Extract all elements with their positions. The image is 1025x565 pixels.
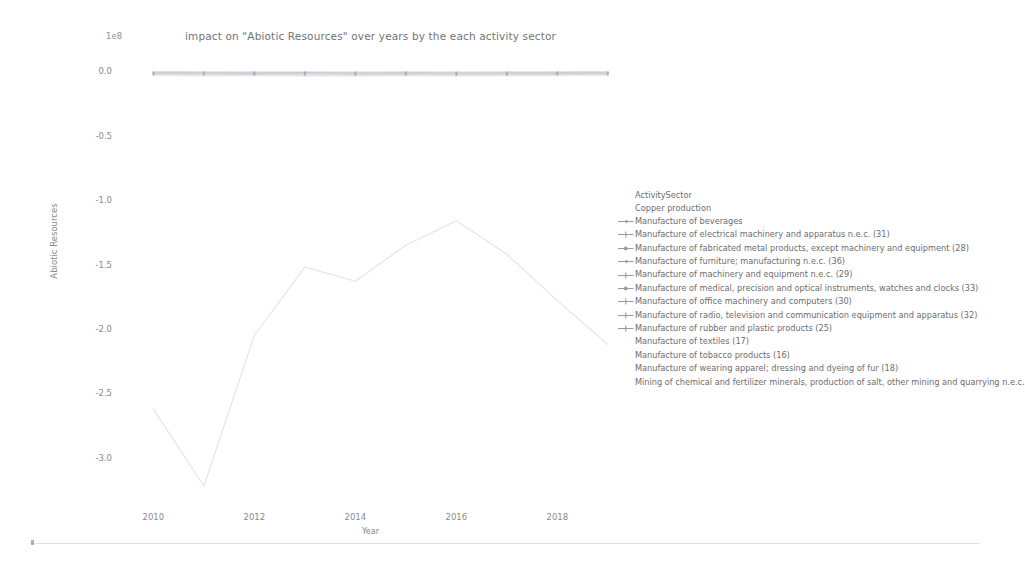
legend-item-label: Manufacture of beverages	[635, 215, 743, 228]
legend-marker-icon	[617, 202, 635, 215]
legend-item[interactable]: Manufacture of furniture; manufacturing …	[617, 255, 987, 268]
legend-item-label: Manufacture of rubber and plastic produc…	[635, 322, 832, 335]
legend-item[interactable]: Manufacture of office machinery and comp…	[617, 295, 987, 308]
x-tick-label: 2018	[547, 512, 569, 522]
series-line	[153, 75, 607, 76]
legend-item[interactable]: Manufacture of rubber and plastic produc…	[617, 322, 987, 335]
legend-item-label: Manufacture of textiles (17)	[635, 335, 749, 348]
legend-item-label: Mining of chemical and fertilizer minera…	[635, 376, 1025, 389]
legend-marker-icon	[617, 322, 635, 335]
legend-entries: Copper productionManufacture of beverage…	[617, 202, 987, 389]
series-line	[153, 221, 607, 487]
y-tick-label: -1.5	[95, 260, 112, 270]
x-tick-label: 2012	[244, 512, 266, 522]
series-marker	[405, 73, 407, 75]
legend-marker-icon	[617, 349, 635, 362]
series-marker	[354, 73, 356, 75]
legend-marker-icon	[617, 309, 635, 322]
page-rule-marker	[31, 540, 34, 545]
legend-item[interactable]: Manufacture of beverages	[617, 215, 987, 228]
legend-item-label: Manufacture of fabricated metal products…	[635, 242, 969, 255]
legend-item[interactable]: Manufacture of fabricated metal products…	[617, 242, 987, 255]
series-line	[153, 76, 607, 77]
legend-item[interactable]: Manufacture of tobacco products (16)	[617, 349, 987, 362]
y-axis-offset-label: 1e8	[106, 31, 122, 41]
legend[interactable]: ActivitySector Copper productionManufact…	[617, 190, 987, 389]
legend-marker-icon	[617, 282, 635, 295]
plot-clip	[118, 48, 623, 503]
legend-item[interactable]: Manufacture of machinery and equipment n…	[617, 268, 987, 281]
legend-item[interactable]: Mining of chemical and fertilizer minera…	[617, 376, 987, 389]
y-tick-label: -1.0	[95, 195, 112, 205]
legend-marker-icon	[617, 242, 635, 255]
legend-item[interactable]: Manufacture of textiles (17)	[617, 335, 987, 348]
y-tick-label: -2.0	[95, 324, 112, 334]
y-tick-label: -0.5	[95, 131, 112, 141]
legend-marker-icon	[617, 215, 635, 228]
legend-item[interactable]: Manufacture of electrical machinery and …	[617, 228, 987, 241]
y-axis-tick-labels: 0.0-0.5-1.0-1.5-2.0-2.5-3.0	[66, 48, 112, 503]
page-title: impact on "Abiotic Resources" over years…	[118, 30, 623, 42]
y-tick-label: -3.0	[95, 453, 112, 463]
legend-item-label: Manufacture of electrical machinery and …	[635, 228, 890, 241]
legend-item[interactable]: Copper production	[617, 202, 987, 215]
x-axis-label: Year	[118, 527, 623, 536]
legend-marker-icon	[617, 362, 635, 375]
legend-title: ActivitySector	[635, 190, 987, 200]
legend-item-label: Copper production	[635, 202, 711, 215]
legend-item-label: Manufacture of office machinery and comp…	[635, 295, 852, 308]
x-tick-label: 2014	[345, 512, 367, 522]
series-marker	[455, 73, 457, 75]
legend-marker-icon	[617, 376, 635, 389]
legend-item-label: Manufacture of tobacco products (16)	[635, 349, 790, 362]
y-axis-label: Abiotic Resources	[49, 181, 59, 301]
legend-item-label: Manufacture of radio, television and com…	[635, 309, 977, 322]
legend-item-label: Manufacture of furniture; manufacturing …	[635, 255, 845, 268]
x-axis-tick-labels: 20102012201420162018	[118, 512, 623, 526]
legend-item[interactable]: Manufacture of radio, television and com…	[617, 309, 987, 322]
page-bottom-rule	[30, 543, 980, 544]
y-tick-label: 0.0	[98, 66, 112, 76]
legend-marker-icon	[617, 255, 635, 268]
legend-item-label: Manufacture of medical, precision and op…	[635, 282, 978, 295]
legend-item-label: Manufacture of wearing apparel; dressing…	[635, 362, 898, 375]
legend-item[interactable]: Manufacture of medical, precision and op…	[617, 282, 987, 295]
legend-item[interactable]: Manufacture of wearing apparel; dressing…	[617, 362, 987, 375]
plot-area	[118, 48, 623, 503]
legend-marker-icon	[617, 336, 635, 349]
legend-marker-icon	[617, 295, 635, 308]
x-tick-label: 2016	[446, 512, 468, 522]
legend-marker-icon	[617, 269, 635, 282]
legend-marker-icon	[617, 228, 635, 241]
legend-item-label: Manufacture of machinery and equipment n…	[635, 268, 852, 281]
y-tick-label: -2.5	[95, 388, 112, 398]
series-lines	[118, 48, 623, 503]
x-tick-label: 2010	[143, 512, 165, 522]
series-marker	[506, 73, 508, 75]
